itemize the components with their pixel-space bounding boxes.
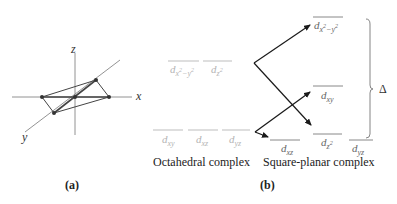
y-axis: [25, 60, 120, 132]
sq-dz2-label: dz2: [321, 137, 333, 152]
correlation-arrows: [254, 25, 311, 137]
square-planar-caption: Square-planar complex: [263, 155, 375, 170]
panel-b-label: (b): [260, 178, 275, 193]
oct-dyz-label: dyz: [229, 134, 241, 149]
square-planar-levels: [270, 17, 373, 140]
oct-dx2y2-label: dx2−y2: [170, 64, 194, 79]
z-axis-label: z: [71, 42, 76, 57]
oct-dxy-label: dxy: [162, 134, 175, 149]
octahedral-caption: Octahedral complex: [153, 155, 250, 170]
y-axis-label: y: [22, 130, 27, 145]
sq-dxy-label: dxy: [321, 90, 334, 105]
octahedral-levels: [153, 61, 250, 130]
oct-dxz-label: dxz: [196, 134, 208, 149]
splitting-brace: [366, 19, 373, 138]
x-axis-label: x: [136, 89, 141, 104]
panel-a-label: (a): [65, 178, 79, 193]
delta-label: Δ: [379, 82, 387, 97]
oct-dz2-label: dz2: [211, 64, 223, 79]
coordinate-axes: [12, 53, 132, 135]
sq-dx2y2-label: dx2−y2: [314, 20, 338, 35]
